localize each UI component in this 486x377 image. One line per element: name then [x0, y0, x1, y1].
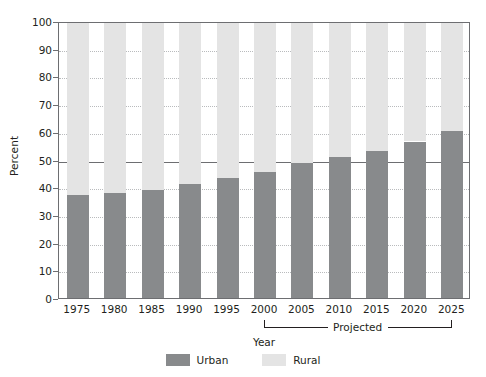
plot-area [58, 22, 470, 299]
projected-label-wrap: Projected [58, 320, 470, 334]
bar-rural-2010[interactable] [329, 22, 351, 157]
bar-group-1980[interactable] [104, 22, 126, 298]
bar-rural-1995[interactable] [217, 22, 239, 178]
bar-urban-1990[interactable] [179, 184, 201, 298]
bar-rural-2025[interactable] [441, 22, 463, 131]
bar-rural-1975[interactable] [67, 22, 89, 195]
bar-urban-2000[interactable] [254, 172, 276, 298]
bar-urban-1985[interactable] [142, 190, 164, 298]
bar-urban-1975[interactable] [67, 195, 89, 298]
bar-rural-1990[interactable] [179, 22, 201, 184]
legend-label-urban: Urban [197, 354, 229, 366]
legend-item-urban[interactable]: Urban [166, 354, 229, 366]
bar-group-2020[interactable] [404, 22, 426, 298]
bar-rural-2000[interactable] [254, 22, 276, 172]
bar-rural-2015[interactable] [366, 22, 388, 151]
bar-rural-1985[interactable] [142, 22, 164, 190]
bar-group-1975[interactable] [67, 22, 89, 298]
y-tick-label-50: 50 [8, 156, 52, 167]
projected-label: Projected [328, 321, 387, 333]
bar-group-1985[interactable] [142, 22, 164, 298]
bar-group-2010[interactable] [329, 22, 351, 298]
bar-group-1995[interactable] [217, 22, 239, 298]
bar-urban-2005[interactable] [291, 163, 313, 298]
bars-layer [59, 23, 469, 298]
y-tick-label-40: 40 [8, 183, 52, 194]
bar-group-2015[interactable] [366, 22, 388, 298]
projected-annotation: Projected [58, 320, 470, 336]
y-tick-label-60: 60 [8, 128, 52, 139]
y-tick-label-20: 20 [8, 239, 52, 250]
y-tick-mark-0 [53, 299, 58, 300]
bar-urban-2020[interactable] [404, 142, 426, 299]
legend-swatch-urban [166, 354, 190, 366]
y-tick-label-70: 70 [8, 100, 52, 111]
y-tick-label-100: 100 [8, 17, 52, 28]
bar-urban-2015[interactable] [366, 151, 388, 298]
bar-urban-1995[interactable] [217, 178, 239, 298]
bar-group-2000[interactable] [254, 22, 276, 298]
y-tick-label-80: 80 [8, 72, 52, 83]
y-tick-label-0: 0 [8, 294, 52, 305]
bar-rural-2020[interactable] [404, 22, 426, 141]
legend-item-rural[interactable]: Rural [262, 354, 320, 366]
bar-rural-1980[interactable] [104, 22, 126, 193]
bar-group-2005[interactable] [291, 22, 313, 298]
bar-urban-2010[interactable] [329, 157, 351, 298]
bar-rural-2005[interactable] [291, 22, 313, 163]
bar-urban-2025[interactable] [441, 131, 463, 298]
legend-swatch-rural [262, 354, 286, 366]
x-axis-title: Year [58, 336, 470, 348]
x-tick-label-2025: 2025 [427, 303, 475, 315]
y-tick-label-10: 10 [8, 266, 52, 277]
y-tick-label-30: 30 [8, 211, 52, 222]
y-tick-label-90: 90 [8, 45, 52, 56]
legend-label-rural: Rural [293, 354, 320, 366]
x-axis-ticks: 1975198019851990199520002005201020152020… [58, 303, 470, 317]
bar-group-1990[interactable] [179, 22, 201, 298]
bar-urban-1980[interactable] [104, 193, 126, 298]
chart-legend: UrbanRural [0, 354, 486, 366]
chart-container: Percent 0102030405060708090100 197519801… [0, 0, 486, 377]
bar-group-2025[interactable] [441, 22, 463, 298]
y-axis-ticks: 0102030405060708090100 [0, 22, 52, 299]
